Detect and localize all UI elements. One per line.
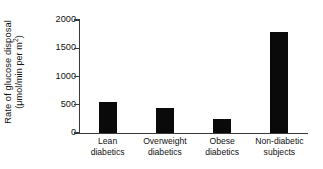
plot-area xyxy=(79,20,308,133)
y-axis-tick-mark xyxy=(74,19,79,20)
y-axis-title: Rate of glucose disposal (μmol/min per m… xyxy=(0,0,40,140)
y-axis-title-line-2: (μmol/min per m2) xyxy=(14,7,25,137)
bar-chart-figure: Rate of glucose disposal (μmol/min per m… xyxy=(0,0,323,169)
x-axis-category-label-line: Non-diabetic xyxy=(245,136,313,147)
y-axis-title-line-1: Rate of glucose disposal xyxy=(3,7,14,137)
y-axis-tick-labels: 0500100015002000 xyxy=(40,0,76,169)
x-axis-category-labels: LeandiabeticsOverweightdiabeticsObesedia… xyxy=(79,136,308,166)
x-axis-category-label-line: subjects xyxy=(245,147,313,158)
y-axis-tick-mark xyxy=(74,132,79,133)
y-axis-tick-mark xyxy=(74,104,79,105)
x-axis-category-label: Non-diabeticsubjects xyxy=(245,136,313,157)
bar xyxy=(270,32,288,133)
y-axis-tick-mark xyxy=(74,76,79,77)
y-axis-tick-mark xyxy=(74,48,79,49)
y-axis-unit-exponent: 2 xyxy=(12,38,19,42)
bar xyxy=(156,108,174,133)
y-axis-tick-label: 1500 xyxy=(42,42,76,52)
bar xyxy=(213,119,231,133)
y-axis-tick-label: 1000 xyxy=(42,71,76,81)
y-axis-unit-prefix: (μmol/min per m xyxy=(14,42,24,109)
y-axis-tick-label: 500 xyxy=(42,99,76,109)
bar xyxy=(99,102,117,133)
y-axis-unit-suffix: ) xyxy=(14,35,24,38)
y-axis-tick-label: 2000 xyxy=(42,14,76,24)
y-axis-tick-label: 0 xyxy=(42,127,76,137)
